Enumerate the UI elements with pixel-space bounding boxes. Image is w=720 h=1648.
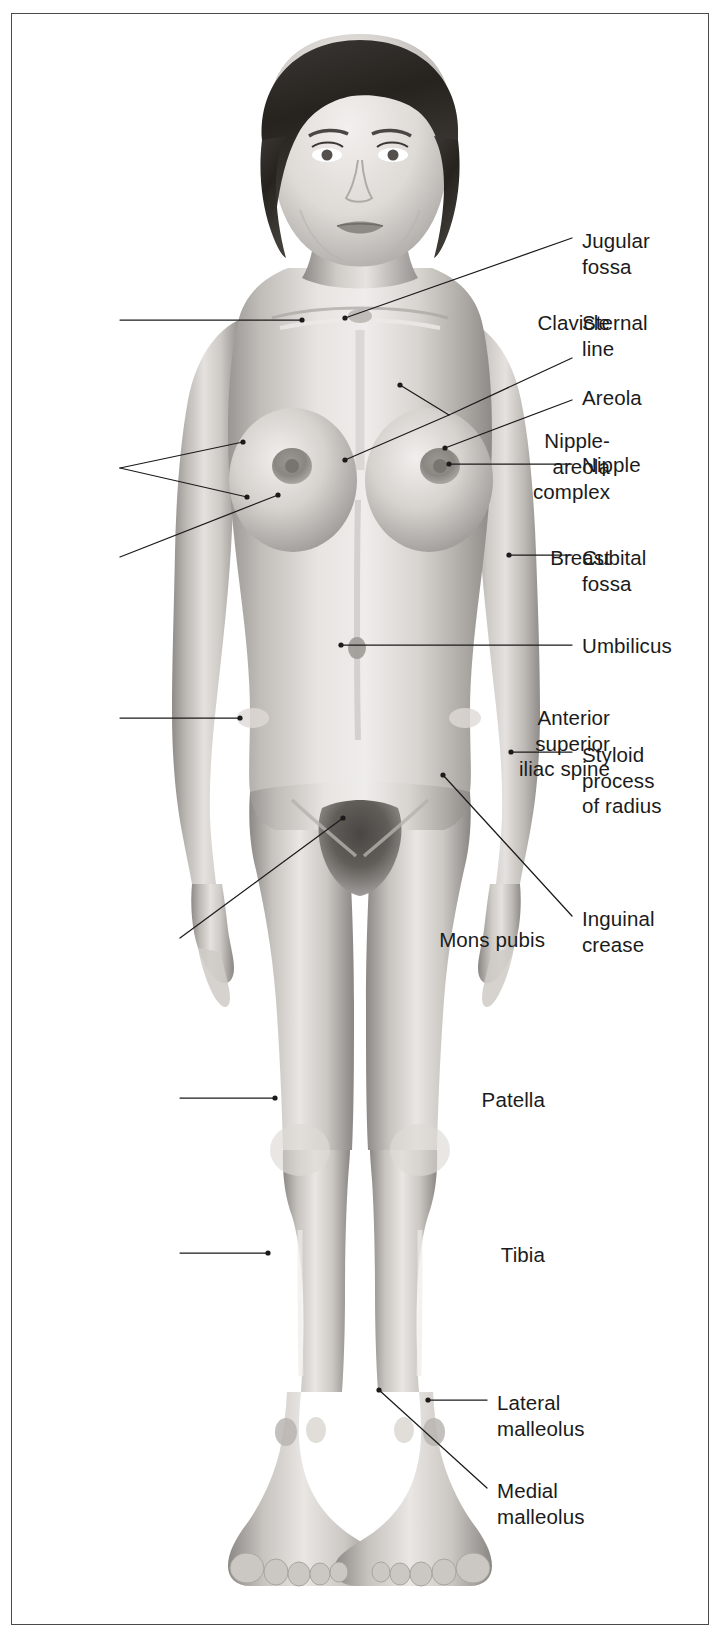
left-tibial-crest bbox=[300, 1230, 301, 1376]
mouth bbox=[337, 222, 383, 234]
left-eyelid bbox=[312, 143, 343, 148]
left-arm bbox=[172, 318, 243, 884]
jugular-fossa-depression bbox=[348, 309, 372, 323]
left-areola bbox=[272, 448, 312, 484]
left-hand bbox=[191, 884, 234, 983]
label-mons-pubis: Mons pubis bbox=[439, 927, 545, 953]
right-thigh bbox=[366, 792, 471, 1150]
lip-line bbox=[337, 224, 383, 226]
right-asis-prominence bbox=[449, 708, 481, 728]
right-lateral-malleolus bbox=[423, 1418, 445, 1446]
label-areola: Areola bbox=[582, 385, 642, 411]
right-eye-sclera bbox=[378, 148, 408, 162]
right-fingers bbox=[482, 948, 514, 1007]
torso bbox=[228, 268, 492, 828]
label-inguinal-crease: Inguinal crease bbox=[582, 906, 655, 957]
umbilicus-depression bbox=[348, 637, 366, 659]
label-medial-malleolus: Medial malleolus bbox=[497, 1478, 585, 1529]
right-areola bbox=[420, 448, 460, 484]
jawline bbox=[300, 210, 420, 264]
right-inguinal-crease bbox=[364, 800, 428, 856]
clavicle-highlight bbox=[280, 320, 440, 328]
right-foot bbox=[334, 1392, 492, 1586]
linea-alba bbox=[357, 500, 358, 740]
left-patella bbox=[270, 1124, 330, 1176]
left-nipple bbox=[285, 459, 299, 473]
left-iris bbox=[322, 150, 333, 161]
left-foot bbox=[228, 1392, 386, 1586]
right-patella bbox=[390, 1124, 450, 1176]
neck bbox=[302, 200, 418, 289]
right-eyelid bbox=[377, 143, 408, 148]
right-lower-leg bbox=[370, 1150, 437, 1392]
right-medial-malleolus bbox=[394, 1417, 414, 1443]
left-fingers bbox=[198, 948, 230, 1007]
right-arm bbox=[463, 318, 540, 884]
left-lateral-malleolus bbox=[275, 1418, 297, 1446]
left-medial-malleolus bbox=[306, 1417, 326, 1443]
label-anterior-superior-iliac-spine: Anterior superior iliac spine bbox=[519, 705, 610, 782]
mons-pubis-hair bbox=[319, 800, 402, 896]
nose bbox=[346, 160, 372, 202]
left-inguinal-crease bbox=[292, 800, 356, 856]
left-asis-prominence bbox=[237, 708, 269, 728]
left-thigh bbox=[249, 792, 354, 1150]
left-breast bbox=[229, 408, 357, 552]
left-eyebrow bbox=[309, 130, 348, 136]
label-tibia: Tibia bbox=[501, 1242, 545, 1268]
label-umbilicus: Umbilicus bbox=[582, 633, 672, 659]
left-toes bbox=[230, 1553, 348, 1586]
right-toes bbox=[372, 1553, 490, 1586]
label-lateral-malleolus: Lateral malleolus bbox=[497, 1390, 585, 1441]
head bbox=[268, 34, 452, 267]
clavicle-shading bbox=[272, 308, 448, 318]
label-patella: Patella bbox=[482, 1087, 545, 1113]
hair-right bbox=[434, 136, 460, 258]
hair-top bbox=[262, 40, 459, 214]
right-breast bbox=[365, 408, 493, 552]
right-iris bbox=[388, 150, 399, 161]
right-eyebrow bbox=[372, 130, 411, 136]
left-lower-leg bbox=[283, 1150, 350, 1392]
label-clavicle: Clavicle bbox=[537, 310, 610, 336]
right-nipple bbox=[433, 459, 447, 473]
anatomy-plate: Jugular fossa Sternal line Areola Nipple… bbox=[0, 0, 720, 1648]
hair-left bbox=[260, 136, 286, 258]
label-nipple-areola-complex: Nipple- areola complex bbox=[533, 428, 610, 505]
left-eye-sclera bbox=[312, 148, 342, 162]
label-breast: Breast bbox=[550, 545, 610, 571]
pelvis-band bbox=[250, 782, 470, 830]
right-tibial-crest bbox=[419, 1230, 420, 1376]
label-jugular-fossa: Jugular fossa bbox=[582, 228, 650, 279]
